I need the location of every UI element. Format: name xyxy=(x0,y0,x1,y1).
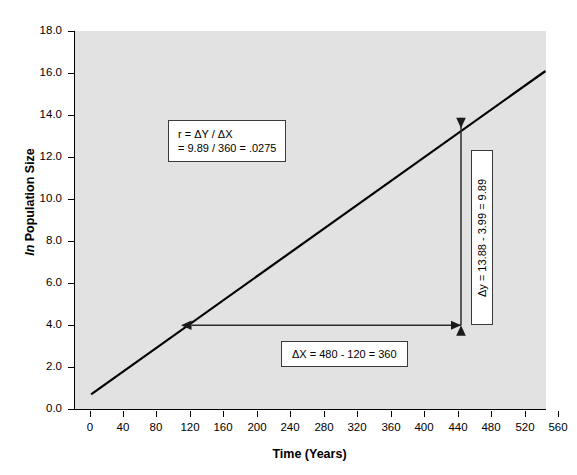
x-tick-mark-200 xyxy=(257,411,258,417)
y-tick-label-10: 10.0 xyxy=(20,193,62,204)
delta-y-label-box: Δy = 13.88 - 3.99 = 9.89 xyxy=(471,150,493,325)
x-tick-mark-0 xyxy=(90,411,91,417)
delta-y-label-text: Δy = 13.88 - 3.99 = 9.89 xyxy=(477,178,488,296)
chart-figure: ln Population Size 18.0 16.0 14.0 12.0 1… xyxy=(0,0,577,475)
y-tick-label-0: 0.0 xyxy=(20,403,62,414)
x-tick-mark-280 xyxy=(324,411,325,417)
x-tick-mark-520 xyxy=(525,411,526,417)
x-tick-mark-80 xyxy=(156,411,157,417)
x-tick-mark-160 xyxy=(223,411,224,417)
rate-formula-line1: r = ΔY / ΔX xyxy=(178,127,276,141)
y-tick-label-12: 12.0 xyxy=(20,151,62,162)
x-tick-mark-440 xyxy=(458,411,459,417)
x-tick-mark-120 xyxy=(190,411,191,417)
y-tick-label-18: 18.0 xyxy=(20,25,62,36)
y-axis-title-prefix: ln xyxy=(23,245,37,256)
x-tick-mark-400 xyxy=(424,411,425,417)
x-tick-label-560: 560 xyxy=(538,421,577,433)
x-tick-mark-320 xyxy=(357,411,358,417)
y-tick-label-4: 4.0 xyxy=(20,319,62,330)
rate-formula-line2: = 9.89 / 360 = .0275 xyxy=(178,141,276,155)
x-tick-mark-360 xyxy=(391,411,392,417)
x-tick-mark-40 xyxy=(123,411,124,417)
y-tick-label-16: 16.0 xyxy=(20,67,62,78)
y-tick-label-14: 14.0 xyxy=(20,109,62,120)
y-tick-label-6: 6.0 xyxy=(20,277,62,288)
delta-x-label-box: ΔX = 480 - 120 = 360 xyxy=(281,341,408,367)
x-axis-title: Time (Years) xyxy=(74,447,545,461)
x-tick-mark-480 xyxy=(491,411,492,417)
x-tick-mark-240 xyxy=(290,411,291,417)
y-tick-label-2: 2.0 xyxy=(20,361,62,372)
y-tick-label-8: 8.0 xyxy=(20,235,62,246)
x-tick-mark-560 xyxy=(558,411,559,417)
rate-formula-box: r = ΔY / ΔX= 9.89 / 360 = .0275 xyxy=(168,120,286,162)
